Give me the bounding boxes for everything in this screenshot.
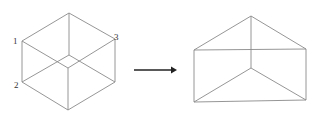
cube-edge <box>69 55 115 82</box>
cube-edge <box>69 13 115 39</box>
diagram-canvas: 1 2 3 <box>0 0 319 117</box>
cube-figure <box>22 13 115 110</box>
prism-edge <box>251 16 306 49</box>
prism-edge <box>194 68 251 102</box>
arrow-right-icon <box>134 67 177 74</box>
cube-edge <box>22 41 68 68</box>
cube-edge <box>22 55 69 82</box>
vertex-label-2: 2 <box>14 80 19 90</box>
cube-edge <box>68 82 115 110</box>
prism-edge <box>194 16 251 50</box>
vertex-label-1: 1 <box>13 36 18 46</box>
prism-figure <box>194 16 306 102</box>
cube-edge <box>22 13 69 41</box>
cube-edge <box>22 82 68 110</box>
cube-edge <box>68 39 115 68</box>
prism-edge <box>194 49 306 50</box>
vertex-label-3: 3 <box>114 32 119 42</box>
prism-edge <box>251 68 306 100</box>
prism-edge <box>194 100 306 102</box>
